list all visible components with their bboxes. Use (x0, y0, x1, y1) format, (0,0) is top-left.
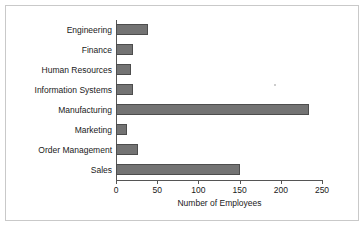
category-label: Sales (0, 160, 112, 180)
x-tick-mark (198, 180, 199, 184)
x-tick-mark (281, 180, 282, 184)
x-axis-line (116, 180, 323, 181)
bar (116, 124, 127, 135)
x-tick-label: 50 (137, 185, 177, 195)
x-tick-label: 150 (220, 185, 260, 195)
category-label: Information Systems (0, 80, 112, 100)
bar-row (116, 100, 322, 120)
x-tick-label: 200 (261, 185, 301, 195)
plot-area (116, 20, 322, 180)
bar (116, 104, 309, 115)
x-axis-title: Number of Employees (116, 198, 323, 208)
bar-row (116, 60, 322, 80)
category-label: Engineering (0, 20, 112, 40)
x-tick-label: 0 (96, 185, 136, 195)
category-label: Human Resources (0, 60, 112, 80)
category-label: Order Management (0, 140, 112, 160)
x-tick-mark (157, 180, 158, 184)
category-label: Finance (0, 40, 112, 60)
category-label: Marketing (0, 120, 112, 140)
bar-row (116, 40, 322, 60)
x-tick-label: 250 (302, 185, 342, 195)
bar (116, 164, 240, 175)
bar-row (116, 120, 322, 140)
bar-row (116, 160, 322, 180)
bar-row (116, 80, 322, 100)
bar (116, 64, 131, 75)
bar (116, 144, 138, 155)
category-label: Manufacturing (0, 100, 112, 120)
bar-row (116, 140, 322, 160)
x-tick-mark (116, 180, 117, 184)
bar (116, 84, 133, 95)
bar-row (116, 20, 322, 40)
scan-artifact-speck (274, 84, 276, 86)
bar (116, 44, 133, 55)
chart-figure: EngineeringFinanceHuman ResourcesInforma… (0, 0, 364, 226)
y-axis-category-labels: EngineeringFinanceHuman ResourcesInforma… (0, 20, 112, 180)
bar (116, 24, 148, 35)
x-tick-mark (322, 180, 323, 184)
x-tick-mark (240, 180, 241, 184)
x-tick-label: 100 (178, 185, 218, 195)
